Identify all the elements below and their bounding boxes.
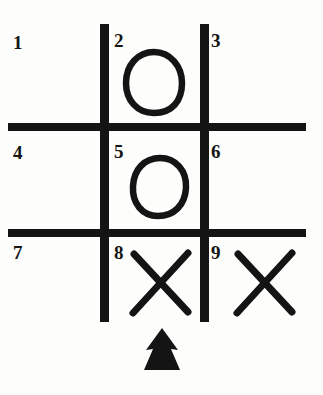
grid-line-vertical-left bbox=[100, 24, 109, 322]
cell-number-1: 1 bbox=[13, 33, 23, 52]
grid-line-horizontal-top bbox=[8, 123, 306, 131]
cell-number-3: 3 bbox=[211, 31, 221, 50]
grid-line-vertical-right bbox=[200, 24, 209, 322]
x-mark-cell-8 bbox=[133, 253, 188, 313]
up-arrow-icon bbox=[144, 328, 180, 370]
cell-number-2: 2 bbox=[114, 31, 124, 50]
tic-tac-toe-figure: 1 2 3 4 5 6 7 8 9 bbox=[0, 0, 323, 395]
cell-number-6: 6 bbox=[211, 142, 221, 161]
cell-number-4: 4 bbox=[13, 143, 23, 162]
x-mark-cell-9 bbox=[237, 253, 292, 313]
grid-line-horizontal-bottom bbox=[8, 229, 306, 237]
cell-number-8: 8 bbox=[114, 243, 124, 262]
board-drawing bbox=[0, 0, 323, 395]
cell-number-7: 7 bbox=[13, 243, 23, 262]
grid-horizontal-lines bbox=[8, 123, 306, 237]
o-mark-cell-2 bbox=[126, 52, 182, 113]
cell-number-5: 5 bbox=[114, 142, 124, 161]
cell-number-9: 9 bbox=[211, 243, 221, 262]
o-mark-cell-5 bbox=[133, 158, 186, 216]
